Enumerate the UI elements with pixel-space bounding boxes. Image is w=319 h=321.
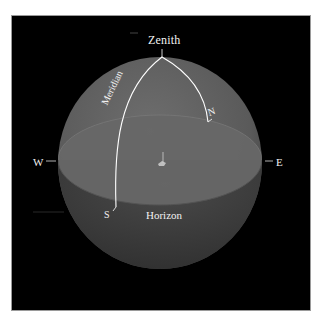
celestial-sphere-diagram [0,0,319,321]
label-east: E [276,157,283,168]
label-zenith: Zenith [148,34,181,46]
label-west: W [33,157,43,168]
label-south: S [104,210,110,220]
sphere [50,57,280,280]
label-horizon: Horizon [146,210,182,221]
